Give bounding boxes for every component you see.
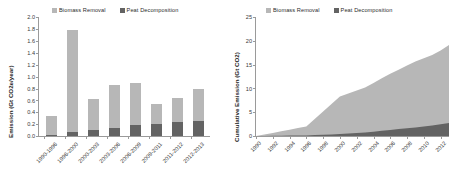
figure-container: Biomass Removal Peat Decomposition Emiss… [0, 0, 453, 186]
legend-label: Peat Decomposition [127, 7, 179, 13]
legend-item-peat-decomposition: Peat Decomposition [334, 7, 393, 13]
y-tick-label: 0.0 [14, 133, 35, 139]
bar-segment-peat-decomposition [151, 124, 162, 137]
annual-emission-bar-chart: Biomass Removal Peat Decomposition Emiss… [0, 0, 226, 186]
bar-segment-peat-decomposition [46, 135, 57, 136]
y-tick-label: 1.2 [14, 62, 35, 68]
bars-plot-area [38, 17, 210, 136]
y-tick-label: 0.2 [14, 121, 35, 127]
bar-segment-biomass-removal [130, 83, 141, 125]
cumulative-emission-area-chart: Biomass Removal Peat Decomposition Cumul… [226, 0, 453, 186]
area-biomass-removal [256, 45, 449, 136]
y-tick-label: 2.0 [14, 14, 35, 20]
bar-2011-2012[interactable] [172, 98, 183, 136]
legend-item-biomass-removal: Biomass Removal [52, 7, 106, 13]
bar-2009-2011[interactable] [151, 104, 162, 136]
bar-segment-biomass-removal [88, 99, 99, 129]
y-tick-label: 0.8 [14, 86, 35, 92]
area-plot-area [256, 17, 449, 136]
legend-label: Biomass Removal [273, 7, 320, 13]
bar-segment-peat-decomposition [88, 130, 99, 137]
legend-item-peat-decomposition: Peat Decomposition [120, 7, 179, 13]
y-tick-label: 1.0 [14, 74, 35, 80]
legend-left: Biomass Removal Peat Decomposition [52, 7, 178, 13]
y-tick-label: 25 [238, 14, 252, 20]
legend-item-biomass-removal: Biomass Removal [266, 7, 320, 13]
bar-segment-biomass-removal [193, 89, 204, 121]
bar-segment-peat-decomposition [193, 121, 204, 137]
x-axis-line [255, 136, 449, 137]
legend-right: Biomass Removal Peat Decomposition [266, 7, 392, 13]
y-tick-label: 10 [238, 86, 252, 92]
bar-segment-biomass-removal [109, 85, 120, 129]
y-tick-label: 15 [238, 62, 252, 68]
x-tick-label: 2012 [412, 140, 447, 175]
y-tick-label: 0 [238, 133, 252, 139]
bar-2003-2006[interactable] [109, 85, 120, 136]
y-tick-label: 0.6 [14, 98, 35, 104]
bar-segment-biomass-removal [151, 104, 162, 124]
y-axis-label: Emission (Gt CO2e/year) [7, 65, 14, 138]
bar-segment-peat-decomposition [130, 125, 141, 136]
bar-2006-2009[interactable] [130, 83, 141, 136]
y-tick-label: 20 [238, 38, 252, 44]
bar-2012-2013[interactable] [193, 89, 204, 136]
bar-segment-peat-decomposition [172, 122, 183, 136]
cumulative-area-svg [256, 17, 449, 136]
y-tick-label: 1.6 [14, 38, 35, 44]
x-axis-line [38, 136, 210, 137]
bar-1996-2000[interactable] [67, 30, 78, 136]
y-tick-label: 5 [238, 109, 252, 115]
bar-segment-peat-decomposition [109, 128, 120, 136]
legend-swatch-icon [52, 8, 57, 13]
bar-2000-2003[interactable] [88, 99, 99, 136]
bar-segment-biomass-removal [46, 116, 57, 135]
legend-label: Biomass Removal [59, 7, 106, 13]
legend-swatch-icon [266, 8, 271, 13]
y-tick-label: 0.4 [14, 109, 35, 115]
bar-1990-1996[interactable] [46, 116, 57, 136]
y-tick-label: 1.8 [14, 26, 35, 32]
legend-label: Peat Decomposition [341, 7, 393, 13]
legend-swatch-icon [120, 8, 125, 13]
y-tick-label: 1.4 [14, 50, 35, 56]
bar-segment-biomass-removal [172, 98, 183, 122]
bar-segment-biomass-removal [67, 30, 78, 132]
legend-swatch-icon [334, 8, 339, 13]
bar-segment-peat-decomposition [67, 132, 78, 136]
